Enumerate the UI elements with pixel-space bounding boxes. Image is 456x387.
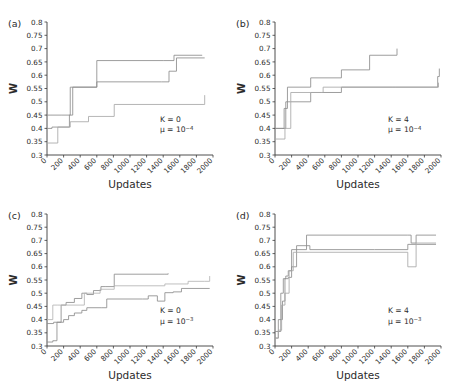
y-tick-label: 0.5 xyxy=(259,97,270,106)
y-tick-label: 0.55 xyxy=(26,84,42,93)
x-tick-label: 1600 xyxy=(162,347,182,367)
y-tick-label: 0.4 xyxy=(31,315,43,324)
x-tick-label: 600 xyxy=(82,347,98,363)
y-tick-label: 0.45 xyxy=(26,111,42,120)
x-tick-label: 1800 xyxy=(407,347,427,367)
x-tick-label: 200 xyxy=(49,347,65,363)
series-line xyxy=(275,69,439,129)
x-axis-title: Updates xyxy=(108,369,152,381)
x-tick-label: 1200 xyxy=(357,156,377,176)
y-tick-label: 0.65 xyxy=(254,249,270,258)
y-tick-label: 0.55 xyxy=(254,84,270,93)
x-tick-label: 1200 xyxy=(357,347,377,367)
y-tick-label: 0.6 xyxy=(259,71,271,80)
annotation-mu: μ = 10−3 xyxy=(388,316,422,326)
y-tick-label: 0.75 xyxy=(254,31,270,40)
y-tick-label: 0.5 xyxy=(31,289,42,298)
x-axis-title: Updates xyxy=(108,178,152,190)
y-tick-label: 0.7 xyxy=(31,44,42,53)
y-tick-label: 0.65 xyxy=(26,249,42,258)
x-tick-label: 400 xyxy=(294,156,310,172)
x-tick-label: 1400 xyxy=(373,347,393,367)
panel-letter: (a) xyxy=(8,18,21,29)
annotation-mu: μ = 10−4 xyxy=(160,125,194,135)
x-axis-title: Updates xyxy=(336,369,380,381)
x-tick-label: 600 xyxy=(310,347,326,363)
y-tick-label: 0.75 xyxy=(26,31,42,40)
panel-letter: (b) xyxy=(236,18,249,29)
annotation-k: K = 0 xyxy=(160,115,181,124)
x-tick-label: 600 xyxy=(310,156,326,172)
x-tick-label: 200 xyxy=(277,156,293,172)
y-tick-label: 0.6 xyxy=(259,262,271,271)
y-tick-label: 0.65 xyxy=(26,58,42,67)
x-tick-label: 1600 xyxy=(162,156,182,176)
series-line xyxy=(47,55,202,115)
y-tick-label: 0.6 xyxy=(31,262,43,271)
y-tick-label: 0.7 xyxy=(259,236,270,245)
x-tick-label: 1000 xyxy=(112,156,132,176)
x-tick-label: 1800 xyxy=(179,347,199,367)
annotation-k: K = 4 xyxy=(388,115,409,124)
y-tick-label: 0.7 xyxy=(31,236,42,245)
x-tick-label: 2000 xyxy=(423,156,443,176)
x-tick-label: 1800 xyxy=(407,156,427,176)
y-tick-label: 0.75 xyxy=(26,223,42,232)
x-tick-label: 1200 xyxy=(129,156,149,176)
annotation-k: K = 4 xyxy=(388,306,409,315)
y-tick-label: 0.75 xyxy=(254,223,270,232)
panel-letter: (c) xyxy=(8,210,21,221)
x-tick-label: 1800 xyxy=(179,156,199,176)
y-tick-label: 0.35 xyxy=(254,328,270,337)
x-tick-label: 1000 xyxy=(340,156,360,176)
y-tick-label: 0.45 xyxy=(26,302,42,311)
x-axis-title: Updates xyxy=(336,178,380,190)
y-axis-title: W xyxy=(236,274,247,285)
annotation-mu: μ = 10−4 xyxy=(388,125,422,135)
x-tick-label: 1200 xyxy=(129,347,149,367)
x-tick-label: 1400 xyxy=(373,156,393,176)
y-tick-label: 0.8 xyxy=(259,18,271,27)
y-tick-label: 0.5 xyxy=(259,289,270,298)
x-tick-label: 1000 xyxy=(112,347,132,367)
x-tick-label: 2000 xyxy=(195,156,215,176)
y-tick-label: 0.55 xyxy=(254,276,270,285)
y-tick-label: 0.4 xyxy=(31,124,43,133)
y-tick-label: 0.65 xyxy=(254,58,270,67)
y-axis-title: W xyxy=(8,274,19,285)
x-tick-label: 1600 xyxy=(390,347,410,367)
annotation-k: K = 0 xyxy=(160,306,181,315)
x-tick-label: 2000 xyxy=(195,347,215,367)
x-tick-label: 200 xyxy=(49,156,65,172)
y-tick-label: 0.35 xyxy=(26,137,42,146)
x-tick-label: 600 xyxy=(82,156,98,172)
y-tick-label: 0.8 xyxy=(31,18,43,27)
x-tick-label: 1400 xyxy=(145,347,165,367)
x-tick-label: 2000 xyxy=(423,347,443,367)
y-tick-label: 0.45 xyxy=(254,111,270,120)
y-tick-label: 0.7 xyxy=(259,44,270,53)
panel-letter: (d) xyxy=(236,210,249,221)
y-tick-label: 0.4 xyxy=(259,124,271,133)
y-tick-label: 0.6 xyxy=(31,71,43,80)
y-axis-title: W xyxy=(8,83,19,94)
annotation-mu: μ = 10−3 xyxy=(160,316,194,326)
panel-d: (d)0.30.350.40.450.50.550.60.650.70.750.… xyxy=(228,194,456,387)
x-tick-label: 1600 xyxy=(390,156,410,176)
x-tick-label: 400 xyxy=(66,347,82,363)
x-tick-label: 400 xyxy=(294,347,310,363)
panel-b: (b)0.30.350.40.450.50.550.60.650.70.750.… xyxy=(228,0,456,194)
y-tick-label: 0.5 xyxy=(31,97,42,106)
x-tick-label: 400 xyxy=(66,156,82,172)
y-tick-label: 0.8 xyxy=(259,210,271,219)
y-tick-label: 0.35 xyxy=(254,137,270,146)
y-tick-label: 0.35 xyxy=(26,328,42,337)
panel-c: (c)0.30.350.40.450.50.550.60.650.70.750.… xyxy=(0,194,228,387)
series-line xyxy=(47,273,168,323)
y-tick-label: 0.45 xyxy=(254,302,270,311)
series-line xyxy=(275,49,397,129)
series-line xyxy=(47,276,210,320)
y-tick-label: 0.8 xyxy=(31,210,43,219)
figure-container: (a)0.30.350.40.450.50.550.60.650.70.750.… xyxy=(0,0,456,387)
y-axis-title: W xyxy=(236,83,247,94)
